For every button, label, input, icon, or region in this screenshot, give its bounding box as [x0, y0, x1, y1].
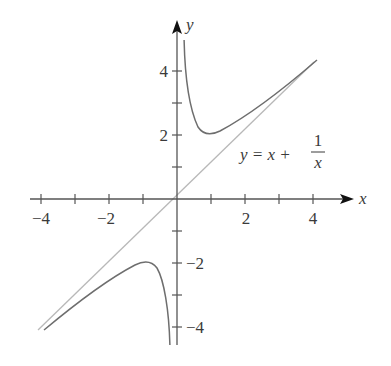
curve-right-branch	[184, 40, 317, 134]
function-label-numerator: 1	[314, 131, 323, 150]
function-label-denominator: x	[313, 153, 322, 172]
function-label-lhs: y = x +	[238, 145, 291, 164]
x-tick-label: 2	[242, 209, 251, 228]
y-tick-label: 2	[160, 126, 169, 145]
curve-left-branch	[44, 262, 170, 345]
y-axis-label: y	[184, 15, 194, 34]
plot: −4 −2 2 4 4 2 −2 −4 x y y = x + 1 x	[0, 0, 391, 366]
y-tick-label: −2	[186, 254, 204, 273]
x-tick-label: −2	[97, 209, 115, 228]
x-tick-label: 4	[309, 209, 318, 228]
x-tick-label: −4	[32, 209, 51, 228]
x-axis-label: x	[358, 189, 367, 208]
asymptote-line	[38, 62, 314, 330]
y-tick-label: 4	[160, 62, 169, 81]
y-tick-label: −4	[186, 318, 205, 337]
